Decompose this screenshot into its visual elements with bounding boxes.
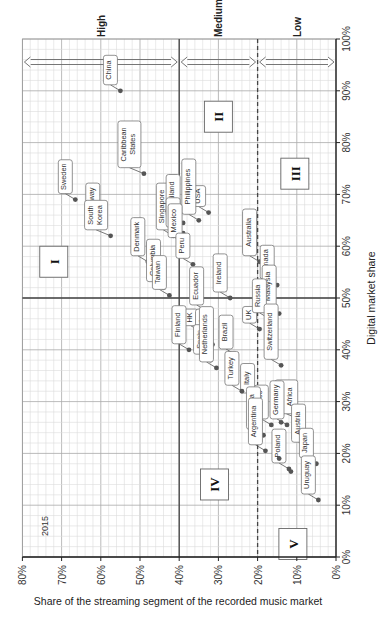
band-label: High (96, 15, 107, 37)
region-v: V (279, 529, 307, 560)
point-label: Caribbean (119, 127, 128, 161)
point-label: Taiwan (153, 261, 162, 284)
y-tick-label: 70% (341, 184, 352, 204)
x-tick-label: 0% (331, 565, 342, 580)
point-label: Japan (300, 433, 309, 453)
point-label: Russia (253, 284, 262, 307)
svg-text:I: I (47, 259, 62, 264)
point-label: Turkey (226, 357, 235, 380)
data-point (279, 420, 284, 425)
y-tick-label: 40% (341, 340, 352, 360)
point-label: Brazil (220, 322, 229, 341)
x-tick-label: 40% (174, 565, 185, 585)
x-tick-label: 20% (253, 565, 264, 585)
y-tick-label: 10% (341, 495, 352, 515)
x-tick-label: 80% (17, 565, 28, 585)
y-tick-label: 60% (341, 236, 352, 256)
point-label: Poland (273, 435, 282, 458)
y-tick-label: 90% (341, 81, 352, 101)
point-label: States (128, 134, 137, 155)
point-label: UK (244, 310, 253, 320)
y-tick-label: 100% (341, 26, 352, 52)
data-point: Australia (243, 209, 262, 264)
point-label: Switzerland (265, 313, 274, 351)
data-point: CaribbeanStates (118, 121, 146, 176)
data-point: Netherlands (199, 307, 218, 371)
x-tick-label: 30% (213, 565, 224, 585)
svg-text:III: III (288, 166, 303, 181)
y-axis-title: Digital market share (365, 251, 377, 345)
region-iv: IV (200, 469, 228, 500)
band-label: Low (292, 17, 303, 37)
point-label: Denmark (132, 221, 141, 251)
point-label: Finland (173, 313, 182, 337)
data-point: China (103, 55, 122, 93)
x-tick-label: 60% (96, 565, 107, 585)
x-tick-label: 50% (135, 565, 146, 585)
region-i: I (40, 246, 68, 277)
y-tick-label: 0% (341, 550, 352, 565)
point-label: Ecuador (191, 272, 200, 300)
data-point (277, 456, 282, 461)
point-label: Uruguay (302, 461, 311, 489)
point-label: Australia (244, 217, 253, 247)
x-tick-label: 70% (57, 565, 68, 585)
y-tick-label: 80% (341, 132, 352, 152)
data-point: Poland (272, 429, 291, 471)
y-tick-label: 30% (341, 391, 352, 411)
x-tick-label: 10% (292, 565, 303, 585)
point-label: Ireland (214, 262, 223, 285)
point-label: China (104, 60, 113, 80)
year-label: 2015 (40, 516, 50, 536)
x-axis-title: Share of the streaming segment of the re… (34, 595, 322, 607)
point-label: South (86, 205, 95, 224)
market-scatter-chart: HighMediumLow IIIIIIIVV ChinaCaribbeanSt… (0, 0, 389, 620)
point-label: Peru (177, 238, 186, 254)
point-label: Netherlands (200, 314, 209, 354)
y-tick-label: 20% (341, 443, 352, 463)
point-label: Africa (285, 387, 294, 407)
point-label: Germany (271, 384, 280, 415)
svg-text:IV: IV (207, 477, 222, 492)
band-label: Medium (213, 0, 224, 37)
region-ii: II (204, 101, 232, 132)
svg-text:II: II (211, 112, 226, 122)
point-label: Philippines (183, 168, 192, 204)
data-point: Taiwan (152, 256, 171, 298)
point-label: Korea (95, 204, 104, 225)
y-tick-label: 50% (341, 288, 352, 308)
point-label: Argentina (249, 405, 258, 438)
point-label: Singapore (157, 190, 166, 224)
data-point (289, 469, 294, 474)
point-label: Sweden (59, 163, 68, 190)
point-label: Mexico (169, 209, 178, 232)
svg-text:V: V (286, 539, 301, 549)
point-label: Italy (242, 371, 251, 385)
region-iii: III (281, 158, 309, 189)
